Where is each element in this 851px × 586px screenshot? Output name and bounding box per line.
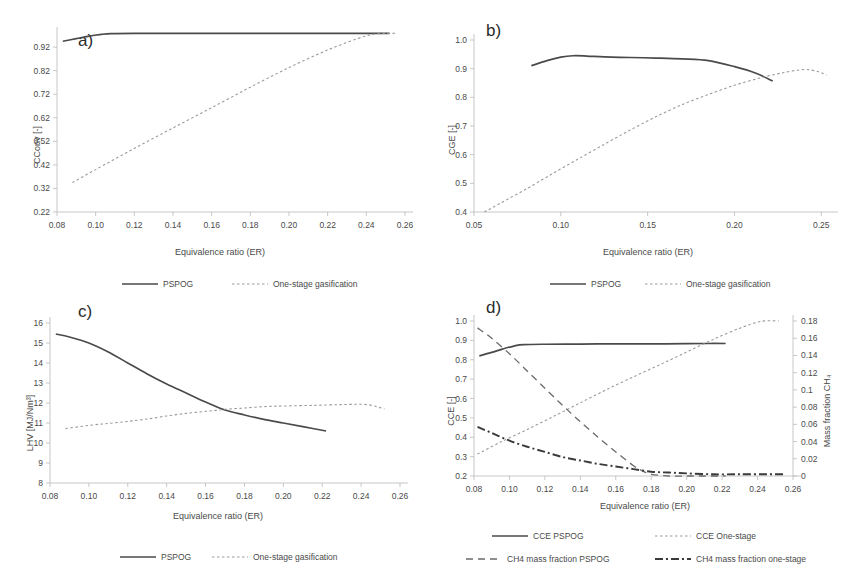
panel-a-xlabel: Equivalence ratio (ER) xyxy=(175,247,265,257)
y-tick-right-label: 0.16 xyxy=(801,333,818,343)
x-tick-label: 0.14 xyxy=(572,484,589,494)
x-tick-label: 0.18 xyxy=(643,484,660,494)
x-tick-label: 0.24 xyxy=(358,220,375,230)
x-tick-label: 0.14 xyxy=(165,220,182,230)
panel-c-xlabel: Equivalence ratio (ER) xyxy=(173,511,263,521)
x-tick-label: 0.12 xyxy=(126,220,143,230)
y-tick-label: 0.72 xyxy=(33,89,50,99)
panel-b-plot: 0.40.50.60.70.80.91.00.050.100.150.200.2… xyxy=(455,34,838,230)
y-tick-right-label: 0 xyxy=(801,471,806,481)
series-cce-pspog xyxy=(479,343,725,355)
panel-d: d) CCE [-] Mass fraction CH₄ 0.20.30.40.… xyxy=(430,293,851,586)
x-tick-label: 0.18 xyxy=(242,220,259,230)
y-tick-right-label: 0.14 xyxy=(801,350,818,360)
y-tick-label: 0.42 xyxy=(33,160,50,170)
y-tick-label: 15 xyxy=(34,338,44,348)
panel-a-plot: 0.220.320.420.520.620.720.820.920.080.10… xyxy=(33,27,413,230)
x-tick-label: 0.22 xyxy=(314,491,331,501)
panel-b: b) CGE [-] 0.40.50.60.70.80.91.00.050.10… xyxy=(430,0,851,293)
y-tick-label: 11 xyxy=(34,418,43,428)
x-tick-label: 0.26 xyxy=(392,491,409,501)
x-tick-label: 0.26 xyxy=(397,220,414,230)
panel-a-letter: a) xyxy=(78,31,93,50)
y-tick-right-label: 0.08 xyxy=(801,402,818,412)
panel-c-plot: 89101112131415160.080.100.120.140.160.18… xyxy=(34,317,409,501)
y-tick-label: 0.3 xyxy=(455,452,467,462)
y-tick-label: 1.0 xyxy=(455,35,467,45)
x-tick-label: 0.20 xyxy=(726,220,743,230)
y-tick-label: 0.6 xyxy=(455,394,467,404)
y-tick-label: 16 xyxy=(34,318,44,328)
x-tick-label: 0.20 xyxy=(678,484,695,494)
panel-d-letter: d) xyxy=(486,298,501,317)
x-tick-label: 0.15 xyxy=(639,220,656,230)
x-tick-label: 0.12 xyxy=(537,484,554,494)
x-tick-label: 0.16 xyxy=(203,220,220,230)
y-tick-right-label: 0.12 xyxy=(801,368,818,378)
series-one-stage-gasification xyxy=(66,404,385,428)
x-tick-label: 0.10 xyxy=(501,484,518,494)
x-tick-label: 0.16 xyxy=(608,484,625,494)
panel-d-xlabel: Equivalence ratio (ER) xyxy=(600,501,690,511)
panel-a-legend: PSPOG One-stage gasification xyxy=(122,279,358,289)
y-tick-label: 10 xyxy=(34,438,44,448)
legend-label-onestage: One-stage gasification xyxy=(686,279,771,289)
legend-label-pspog: PSPOG xyxy=(163,279,193,289)
x-tick-label: 0.10 xyxy=(81,491,98,501)
y-tick-label: 0.9 xyxy=(455,335,467,345)
panel-b-letter: b) xyxy=(486,21,501,40)
y-tick-right-label: 0.02 xyxy=(801,454,818,464)
y-tick-label: 0.9 xyxy=(455,64,467,74)
y-tick-right-label: 0.18 xyxy=(801,316,818,326)
panel-b-xlabel: Equivalence ratio (ER) xyxy=(603,247,693,257)
x-tick-label: 0.26 xyxy=(785,484,802,494)
panel-c-svg: c) LHV [MJ/Nm³] 89101112131415160.080.10… xyxy=(0,293,430,586)
series-ch4-mass-fraction-pspog xyxy=(478,328,726,476)
y-tick-label: 0.7 xyxy=(455,374,467,384)
legend-label-onestage: One-stage gasification xyxy=(253,552,338,562)
y-tick-right-label: 0.1 xyxy=(801,385,813,395)
y-tick-right-label: 0.04 xyxy=(801,437,818,447)
x-tick-label: 0.22 xyxy=(319,220,336,230)
x-tick-label: 0.08 xyxy=(466,484,483,494)
y-tick-label: 0.32 xyxy=(33,183,50,193)
panel-b-svg: b) CGE [-] 0.40.50.60.70.80.91.00.050.10… xyxy=(430,0,851,293)
y-tick-label: 0.6 xyxy=(455,150,467,160)
x-tick-label: 0.24 xyxy=(353,491,370,501)
legend-label-ch4-onestage: CH4 mass fraction one-stage xyxy=(696,554,806,564)
y-tick-label: 0.5 xyxy=(455,178,467,188)
x-tick-label: 0.12 xyxy=(120,491,137,501)
y-tick-label: 0.62 xyxy=(33,113,50,123)
y-tick-right-label: 0.06 xyxy=(801,419,818,429)
panel-c-legend: PSPOG One-stage gasification xyxy=(120,552,338,562)
x-tick-label: 0.10 xyxy=(87,220,104,230)
panel-c: c) LHV [MJ/Nm³] 89101112131415160.080.10… xyxy=(0,293,430,586)
y-tick-label: 0.5 xyxy=(455,413,467,423)
figure-container: a) CConv [-] 0.220.320.420.520.620.720.8… xyxy=(0,0,851,586)
legend-label-cce-onestage: CCE One-stage xyxy=(696,531,756,541)
y-tick-label: 0.82 xyxy=(33,66,50,76)
y-tick-label: 0.4 xyxy=(455,207,467,217)
x-tick-label: 0.20 xyxy=(275,491,292,501)
legend-label-onestage: One-stage gasification xyxy=(273,279,358,289)
y-tick-label: 0.52 xyxy=(33,136,50,146)
x-tick-label: 0.20 xyxy=(281,220,298,230)
y-tick-label: 0.7 xyxy=(455,121,467,131)
x-tick-label: 0.14 xyxy=(158,491,175,501)
y-tick-label: 1.0 xyxy=(455,316,467,326)
series-one-stage-gasification xyxy=(72,33,397,182)
panel-b-legend: PSPOG One-stage gasification xyxy=(550,279,771,289)
panel-d-ylabel-right: Mass fraction CH₄ xyxy=(822,374,832,447)
x-tick-label: 0.24 xyxy=(749,484,766,494)
x-tick-label: 0.05 xyxy=(466,220,483,230)
x-tick-label: 0.22 xyxy=(714,484,731,494)
panel-a-svg: a) CConv [-] 0.220.320.420.520.620.720.8… xyxy=(0,0,430,293)
x-tick-label: 0.08 xyxy=(49,220,66,230)
series-pspog xyxy=(56,334,326,431)
series-cce-one-stage xyxy=(478,321,779,454)
legend-label-cce-pspog: CCE PSPOG xyxy=(533,531,584,541)
panel-d-legend: CCE PSPOG CCE One-stage CH4 mass fractio… xyxy=(466,531,806,564)
legend-label-pspog: PSPOG xyxy=(591,279,621,289)
panel-d-svg: d) CCE [-] Mass fraction CH₄ 0.20.30.40.… xyxy=(430,293,851,586)
y-tick-label: 13 xyxy=(34,378,44,388)
